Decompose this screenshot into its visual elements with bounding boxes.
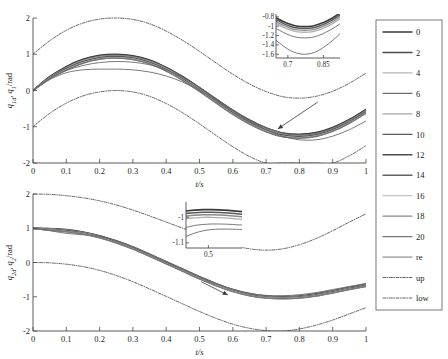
series-line-2 — [33, 55, 366, 135]
x-tick-label: 1 — [364, 334, 368, 344]
legend-item-6[interactable]: 6 — [383, 89, 420, 99]
x-tick-label: 0.9 — [327, 334, 338, 344]
legend-label-16: 16 — [416, 191, 425, 201]
y-tick-label: 1 — [26, 223, 30, 233]
x-tick-label: 0.4 — [161, 334, 172, 344]
legend-item-20[interactable]: 20 — [383, 232, 425, 242]
x-tick-label: 0.3 — [128, 334, 139, 344]
y-tick-label: -1 — [23, 292, 30, 302]
arrow-head — [278, 124, 283, 129]
inset-y-tick-label: -1.2 — [263, 32, 275, 40]
inset-y-tick-label: -1.1 — [173, 239, 185, 247]
legend-label-up: up — [416, 273, 425, 283]
y-axis-title: q1d, q1/rad — [4, 72, 17, 108]
legend-label-8: 8 — [416, 109, 420, 119]
inset-y-tick-label: -1 — [268, 23, 274, 31]
inset-bottom: -1-1.10.5 — [173, 202, 242, 259]
legend-label-10: 10 — [416, 130, 425, 140]
chart-panel-bottom: 00.10.20.30.40.50.60.70.80.91210-1-2t/sq… — [4, 189, 368, 357]
x-axis-title: t/s — [195, 179, 204, 189]
legend-item-16[interactable]: 16 — [383, 191, 425, 201]
y-tick-label: -1 — [23, 122, 30, 132]
y-axis-title: q2d, q2/rad — [4, 244, 17, 280]
y-axis-title-text: q2d, q2/rad — [4, 244, 17, 280]
x-tick-label: 1 — [364, 166, 368, 176]
x-tick-label: 0.6 — [227, 166, 238, 176]
legend-item-0[interactable]: 0 — [383, 27, 420, 37]
y-tick-label: 1 — [26, 49, 30, 59]
inset-y-tick-label: -1.6 — [263, 51, 275, 59]
series-line-0 — [33, 54, 366, 134]
legend-item-4[interactable]: 4 — [383, 68, 421, 78]
inset-y-tick-label: -1 — [178, 214, 184, 222]
x-tick-label: 0.7 — [261, 334, 272, 344]
legend-label-2: 2 — [416, 48, 420, 58]
legend-item-up[interactable]: up — [383, 273, 425, 283]
legend-item-low[interactable]: low — [383, 293, 430, 303]
x-tick-label: 0.1 — [61, 334, 72, 344]
y-tick-label: 2 — [26, 189, 30, 199]
x-tick-label: 0.3 — [128, 166, 139, 176]
x-tick-label: 0.8 — [294, 166, 305, 176]
arrow-shaft — [278, 102, 318, 129]
series-line-low — [33, 91, 366, 164]
legend-item-12[interactable]: 12 — [383, 150, 425, 160]
x-axis-title: t/s — [195, 347, 204, 357]
x-tick-label: 0 — [31, 166, 35, 176]
y-tick-label: 0 — [26, 86, 30, 96]
figure-canvas: 00.10.20.30.40.50.60.70.80.91210-1-2t/sq… — [0, 0, 448, 359]
inset-x-tick-label: 0.85 — [317, 61, 330, 69]
x-tick-label: 0.8 — [294, 334, 305, 344]
legend-label-re: re — [416, 252, 423, 262]
x-tick-label: 0.5 — [194, 334, 205, 344]
legend-item-2[interactable]: 2 — [383, 48, 420, 58]
inset-x-tick-label: 0.7 — [283, 61, 292, 69]
legend-label-low: low — [416, 293, 430, 303]
inset-y-tick-label: -1.4 — [263, 41, 275, 49]
legend-label-12: 12 — [416, 150, 425, 160]
legend: 02468101214161820reuplow — [376, 20, 442, 310]
legend-item-re[interactable]: re — [383, 252, 423, 262]
chart-panel-top: 00.10.20.30.40.50.60.70.80.91210-1-2t/sq… — [4, 13, 368, 189]
inset-y-tick-label: -0.8 — [263, 13, 275, 21]
legend-label-18: 18 — [416, 211, 425, 221]
x-tick-label: 0 — [31, 334, 35, 344]
legend-item-18[interactable]: 18 — [383, 211, 425, 221]
legend-item-8[interactable]: 8 — [383, 109, 420, 119]
x-tick-label: 0.2 — [94, 334, 105, 344]
y-tick-label: 0 — [26, 258, 30, 268]
legend-item-10[interactable]: 10 — [383, 130, 425, 140]
legend-label-0: 0 — [416, 27, 420, 37]
legend-label-6: 6 — [416, 89, 420, 99]
x-tick-label: 0.9 — [327, 166, 338, 176]
series-line-re2 — [33, 69, 366, 140]
x-tick-label: 0.2 — [94, 166, 105, 176]
series-line-14 — [33, 57, 366, 137]
y-tick-label: -2 — [23, 158, 30, 168]
x-tick-label: 0.7 — [261, 166, 272, 176]
y-axis-title-text: q1d, q1/rad — [4, 72, 17, 108]
legend-label-4: 4 — [416, 68, 421, 78]
legend-box — [376, 20, 442, 310]
legend-label-20: 20 — [416, 232, 425, 242]
x-tick-label: 0.6 — [227, 334, 238, 344]
x-tick-label: 0.4 — [161, 166, 172, 176]
figure-root: 00.10.20.30.40.50.60.70.80.91210-1-2t/sq… — [0, 0, 448, 359]
inset-top: -0.8-1-1.2-1.4-1.60.70.85 — [263, 13, 340, 69]
legend-item-14[interactable]: 14 — [383, 170, 425, 180]
inset-x-tick-label: 0.5 — [204, 251, 213, 259]
x-tick-label: 0.1 — [61, 166, 72, 176]
y-tick-label: 2 — [26, 13, 30, 23]
legend-label-14: 14 — [416, 170, 425, 180]
series-line-low — [33, 263, 366, 332]
x-tick-label: 0.5 — [194, 166, 205, 176]
annotation-arrow — [278, 102, 318, 129]
series-line-12 — [33, 57, 366, 137]
y-tick-label: -2 — [23, 326, 30, 336]
